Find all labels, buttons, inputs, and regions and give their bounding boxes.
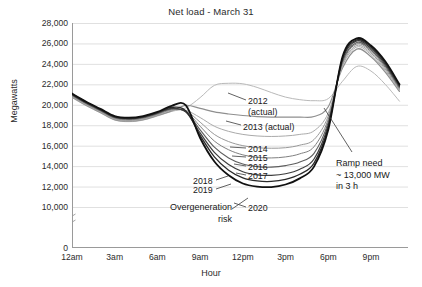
plot-area bbox=[72, 23, 408, 248]
plot-svg bbox=[72, 23, 408, 248]
x-tick-label: 3pm bbox=[277, 252, 294, 262]
x-tick-label: 12am bbox=[61, 252, 83, 262]
y-tick-label: 26,000 bbox=[22, 38, 68, 48]
x-axis-tick-labels: 12am3am6am9am12pm3pm6pm9pm bbox=[72, 250, 408, 266]
annotation-overgeneration-risk: Overgenerationrisk bbox=[136, 202, 232, 225]
y-tick-label: 28,000 bbox=[22, 18, 68, 28]
x-tick-label: 9pm bbox=[363, 252, 380, 262]
annotation-ramp-need: Ramp need~ 13,000 MWin 3 h bbox=[336, 158, 390, 193]
y-axis-tick-labels: 28,00026,00024,00022,00020,00018,00016,0… bbox=[14, 23, 68, 248]
x-tick-label: 3am bbox=[106, 252, 123, 262]
series-label-2019: 2019 bbox=[193, 185, 213, 196]
y-tick-label: 18,000 bbox=[22, 120, 68, 130]
y-tick-label: 10,000 bbox=[22, 202, 68, 212]
chart-title: Net load - March 31 bbox=[0, 6, 422, 17]
x-axis-title: Hour bbox=[0, 268, 422, 278]
y-tick-label: 20,000 bbox=[22, 100, 68, 110]
y-tick-label: 12,000 bbox=[22, 182, 68, 192]
x-tick-label: 6am bbox=[149, 252, 166, 262]
x-tick-label: 6pm bbox=[320, 252, 337, 262]
series-label-2020: 2020 bbox=[248, 203, 268, 214]
y-tick-label: 14,000 bbox=[22, 161, 68, 171]
net-load-duck-curve-chart: Net load - March 31 Megawatts 28,00026,0… bbox=[0, 0, 422, 287]
axis-lines bbox=[72, 23, 408, 248]
y-tick-label: 22,000 bbox=[22, 79, 68, 89]
series-label-2012-actual-: 2012(actual) bbox=[248, 96, 277, 117]
x-tick-label: 12pm bbox=[232, 252, 254, 262]
y-tick-label: 16,000 bbox=[22, 141, 68, 151]
y-tick-label: 24,000 bbox=[22, 59, 68, 69]
series-label-2017: 2017 bbox=[248, 171, 268, 182]
series-label-2013-actual-: 2013 (actual) bbox=[243, 122, 294, 133]
x-tick-label: 9am bbox=[192, 252, 209, 262]
